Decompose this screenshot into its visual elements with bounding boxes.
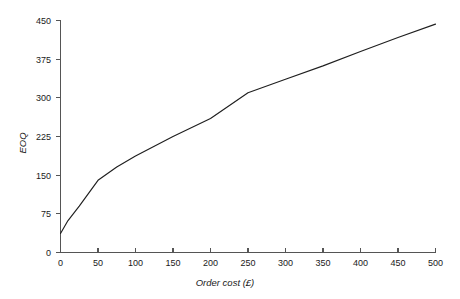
y-tick-label: 75 — [41, 209, 51, 219]
x-tick-label: 100 — [128, 258, 143, 268]
x-tick-label: 400 — [353, 258, 368, 268]
x-tick-label: 250 — [240, 258, 255, 268]
eoq-vs-order-cost-chart: 0 50 100 150 200 250 300 350 400 450 500… — [0, 0, 460, 299]
x-tick-label: 0 — [58, 258, 63, 268]
y-tick-label: 375 — [36, 55, 51, 65]
y-tick-label: 300 — [36, 93, 51, 103]
x-tick-label: 50 — [93, 258, 103, 268]
x-tick-label: 450 — [390, 258, 405, 268]
x-tick-label: 300 — [278, 258, 293, 268]
chart-figure: 0 50 100 150 200 250 300 350 400 450 500… — [0, 0, 460, 299]
y-tick-label: 150 — [36, 171, 51, 181]
y-axis-title: EOQ — [17, 132, 28, 154]
x-axis-title: Order cost (£) — [196, 277, 255, 288]
x-tick-label: 150 — [165, 258, 180, 268]
x-tick-label: 500 — [428, 258, 443, 268]
y-tick-label: 450 — [36, 16, 51, 26]
chart-background — [0, 0, 460, 299]
y-tick-label: 0 — [46, 248, 51, 258]
y-tick-label: 225 — [36, 132, 51, 142]
x-tick-label: 350 — [315, 258, 330, 268]
x-tick-label: 200 — [203, 258, 218, 268]
